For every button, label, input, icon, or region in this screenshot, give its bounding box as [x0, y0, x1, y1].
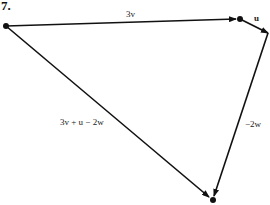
vector-3v — [6, 19, 236, 26]
label-3v: 3v — [126, 9, 135, 19]
point-after-3v — [237, 16, 243, 22]
point-end — [210, 197, 216, 203]
label-u: u — [254, 13, 259, 23]
vector-diagram — [0, 0, 270, 205]
label-resultant: 3v + u − 2w — [60, 117, 104, 127]
label-neg-2w: −2w — [245, 119, 261, 129]
vector-neg-2w — [214, 33, 268, 196]
vector-resultant — [6, 26, 209, 197]
point-origin — [3, 23, 9, 29]
